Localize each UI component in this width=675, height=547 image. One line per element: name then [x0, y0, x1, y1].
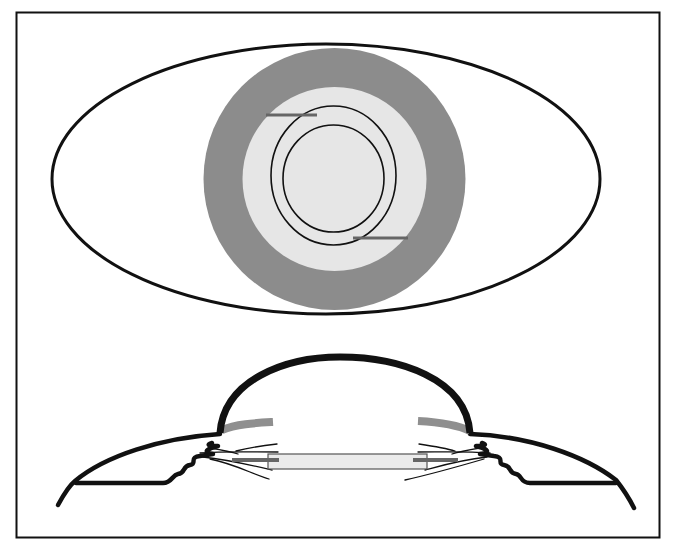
left-ciliary-outline [76, 443, 218, 483]
right-sclera-outline [470, 434, 634, 508]
right-iris-band [418, 421, 470, 431]
right-ciliary-outline [476, 443, 616, 483]
side-view-cross-section [58, 357, 634, 508]
left-capsule-line-1 [200, 452, 278, 453]
left-sclera-outline [58, 434, 220, 505]
right-capsule-line-4 [452, 448, 480, 454]
lens-optic-side [268, 454, 427, 469]
left-iris-band [222, 422, 273, 430]
eye-lens-diagram [0, 0, 675, 547]
left-capsule-line-5 [236, 444, 277, 451]
front-view [52, 44, 600, 314]
right-capsule-line-5 [419, 444, 455, 451]
diagram-canvas [0, 0, 675, 547]
